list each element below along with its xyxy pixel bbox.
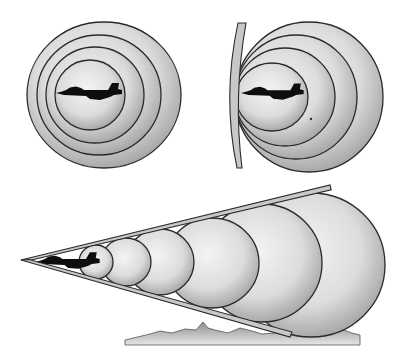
sound-wave-illustration: [0, 0, 400, 360]
subsonic-panel: [27, 22, 181, 168]
speck: [310, 118, 312, 120]
